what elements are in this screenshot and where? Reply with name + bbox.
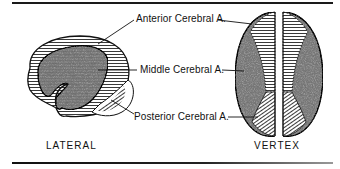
posterior-cerebral-label: Posterior Cerebral A.: [134, 111, 229, 122]
bottom-rule: [12, 162, 333, 164]
anterior-cerebral-label: Anterior Cerebral A.: [136, 13, 226, 24]
vertex-view-label: VERTEX: [254, 140, 300, 151]
lateral-view-label: LATERAL: [46, 140, 97, 151]
middle-cerebral-label: Middle Cerebral A.: [140, 64, 224, 75]
vertex-brain: [235, 12, 323, 136]
